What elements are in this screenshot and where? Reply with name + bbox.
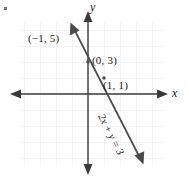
- point-label-neg1-5: (−1, 5): [28, 32, 59, 44]
- graph-canvas: [0, 0, 189, 182]
- point-label-0-3: (0, 3): [92, 54, 117, 66]
- point-marker: [86, 60, 89, 63]
- point-label-1-1: (1, 1): [103, 79, 128, 91]
- graph-figure: (−1, 5) (0, 3) (1, 1) 2x + y = 3 x y: [0, 0, 189, 182]
- y-axis-label: y: [90, 0, 95, 15]
- x-axis-label: x: [172, 86, 177, 101]
